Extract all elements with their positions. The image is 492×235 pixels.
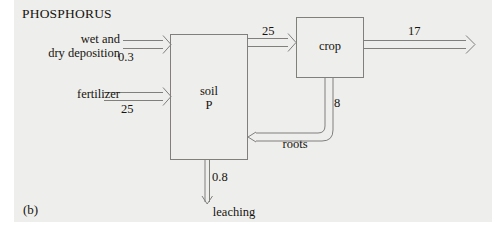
flux-value-deposition: 0.3 bbox=[118, 50, 134, 65]
label-crop: crop bbox=[296, 40, 364, 54]
flux-value-leaching: 0.8 bbox=[212, 170, 228, 185]
label-soil-p: soil P bbox=[170, 85, 248, 112]
label-wet-dry-deposition: wet and dry deposition bbox=[8, 33, 120, 60]
panel-letter: (b) bbox=[23, 203, 38, 217]
flux-value-roots: 8 bbox=[334, 96, 340, 111]
figure-title: PHOSPHORUS bbox=[22, 7, 112, 22]
arrow-soil-to-leaching bbox=[202, 160, 213, 204]
flux-value-fertilizer: 25 bbox=[121, 102, 134, 117]
figure-root: PHOSPHORUS wet and dry deposition fertil… bbox=[0, 0, 492, 235]
label-fertilizer: fertilizer bbox=[8, 88, 120, 102]
arrow-crop-to-soil-roots bbox=[248, 78, 333, 142]
flux-value-crop-export: 17 bbox=[408, 24, 421, 39]
label-leaching: leaching bbox=[178, 206, 290, 220]
label-roots: roots bbox=[250, 138, 340, 152]
flux-value-soil-to-crop: 25 bbox=[262, 24, 275, 39]
